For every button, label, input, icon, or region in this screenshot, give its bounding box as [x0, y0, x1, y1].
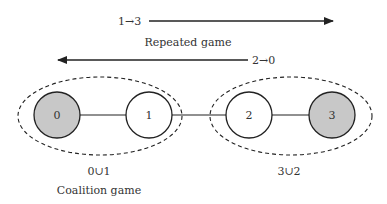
game-diagram: 1→3 Repeated game 2→0 0 1 2 3 0∪1 3∪2 Co… [0, 0, 387, 204]
coalition-label-left: 0∪1 [87, 165, 110, 178]
node-1: 1 [126, 92, 172, 138]
repeated-game-caption: Repeated game [145, 36, 232, 49]
svg-text:3: 3 [329, 109, 336, 122]
node-0: 0 [34, 92, 80, 138]
svg-text:1: 1 [146, 109, 153, 122]
coalition-label-right: 3∪2 [277, 165, 300, 178]
bottom-arrow-label: 2→0 [252, 54, 275, 67]
svg-text:0: 0 [54, 109, 61, 122]
svg-text:2: 2 [246, 109, 253, 122]
node-2: 2 [226, 92, 272, 138]
node-3: 3 [309, 92, 355, 138]
top-arrow-label: 1→3 [118, 15, 141, 28]
coalition-game-caption: Coalition game [57, 184, 141, 197]
